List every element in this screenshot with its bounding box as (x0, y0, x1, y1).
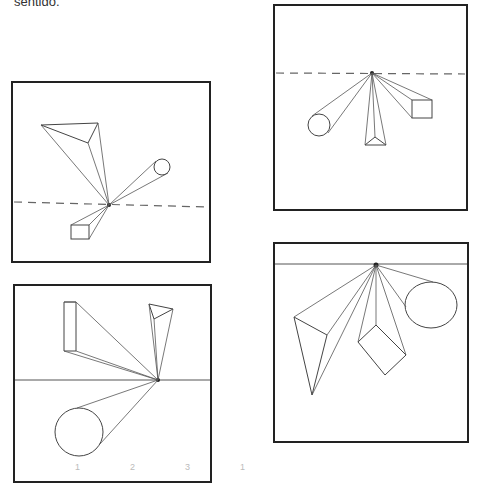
panel-bottom-left (14, 285, 211, 482)
panel-bottom-right (274, 243, 468, 442)
scan-mark: 3 (185, 462, 190, 472)
scan-mark: 1 (240, 462, 245, 472)
scan-mark: 1 (75, 462, 80, 472)
perspective-drawings (0, 0, 479, 495)
panel-top-left (12, 82, 210, 262)
scan-mark: 2 (130, 462, 135, 472)
panel-top-right (274, 5, 467, 210)
